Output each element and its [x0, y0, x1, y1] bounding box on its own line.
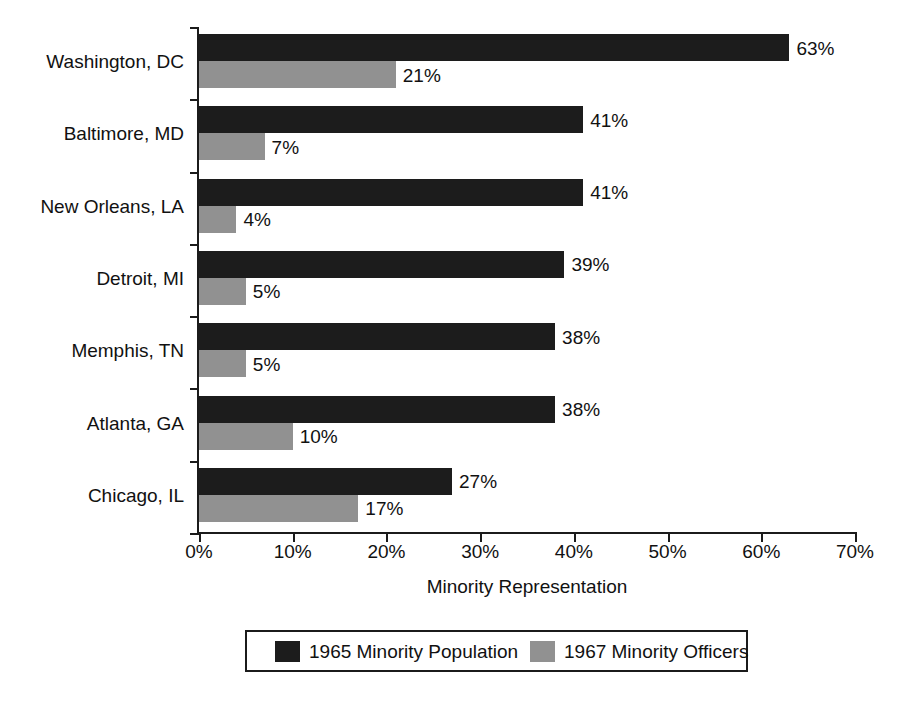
bar: 38%: [199, 323, 555, 350]
bar-group: Chicago, IL27%17%: [199, 461, 855, 533]
category-label: Memphis, TN: [71, 341, 184, 360]
category-label: Washington, DC: [46, 52, 184, 71]
legend-entry: 1967 Minority Officers: [530, 641, 748, 662]
bar-value-label: 27%: [459, 472, 497, 491]
bar: 41%: [199, 106, 583, 133]
bar-value-label: 10%: [300, 427, 338, 446]
bar: 5%: [199, 350, 246, 377]
bar: 39%: [199, 251, 564, 278]
bar-group: Atlanta, GA38%10%: [199, 388, 855, 460]
bar: 21%: [199, 61, 396, 88]
bar-value-label: 39%: [571, 255, 609, 274]
bar: 5%: [199, 278, 246, 305]
bar-group: Detroit, MI39%5%: [199, 244, 855, 316]
category-label: Atlanta, GA: [87, 414, 184, 433]
legend: 1965 Minority Population1967 Minority Of…: [245, 630, 748, 672]
category-label: New Orleans, LA: [40, 197, 184, 216]
bar-value-label: 5%: [253, 354, 280, 373]
bar: 17%: [199, 495, 358, 522]
x-axis-tick-label: 20%: [367, 542, 405, 561]
legend-label: 1967 Minority Officers: [564, 642, 748, 661]
bar-group: New Orleans, LA41%4%: [199, 172, 855, 244]
bar-chart: Washington, DC63%21%Baltimore, MD41%7%Ne…: [0, 0, 900, 710]
legend-swatch-icon: [530, 641, 555, 662]
legend-swatch-icon: [275, 641, 300, 662]
bar: 38%: [199, 396, 555, 423]
bar-group: Baltimore, MD41%7%: [199, 99, 855, 171]
category-label: Chicago, IL: [88, 486, 184, 505]
bar: 4%: [199, 206, 236, 233]
x-axis-tick-label: 70%: [836, 542, 874, 561]
bar-group: Memphis, TN38%5%: [199, 316, 855, 388]
bar-value-label: 63%: [796, 38, 834, 57]
bar: 7%: [199, 133, 265, 160]
category-label: Baltimore, MD: [64, 124, 184, 143]
bar: 27%: [199, 468, 452, 495]
bar: 10%: [199, 423, 293, 450]
bar: 63%: [199, 34, 789, 61]
bar-value-label: 4%: [243, 210, 270, 229]
bar: 41%: [199, 179, 583, 206]
x-axis-tick-label: 10%: [274, 542, 312, 561]
bar-value-label: 38%: [562, 327, 600, 346]
bar-value-label: 21%: [403, 65, 441, 84]
legend-entry: 1965 Minority Population: [275, 641, 518, 662]
bar-value-label: 38%: [562, 400, 600, 419]
category-label: Detroit, MI: [96, 269, 184, 288]
legend-label: 1965 Minority Population: [309, 642, 518, 661]
x-axis-tick-label: 50%: [649, 542, 687, 561]
y-axis-line: [197, 27, 199, 535]
x-axis-tick-label: 30%: [461, 542, 499, 561]
bar-value-label: 7%: [272, 137, 299, 156]
x-axis-title: Minority Representation: [199, 577, 855, 596]
plot-area: Washington, DC63%21%Baltimore, MD41%7%Ne…: [199, 27, 855, 533]
x-axis-tick-label: 60%: [742, 542, 780, 561]
x-axis-tick-label: 0%: [185, 542, 212, 561]
x-axis-line: [197, 532, 857, 534]
bar-value-label: 41%: [590, 110, 628, 129]
bar-group: Washington, DC63%21%: [199, 27, 855, 99]
bar-value-label: 17%: [365, 499, 403, 518]
bar-value-label: 41%: [590, 183, 628, 202]
bar-value-label: 5%: [253, 282, 280, 301]
x-axis-tick-label: 40%: [555, 542, 593, 561]
